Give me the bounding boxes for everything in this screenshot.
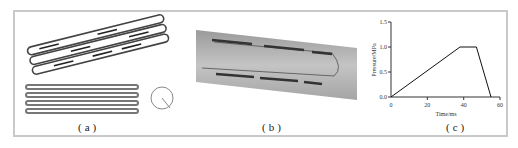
svg-text:0.5: 0.5: [380, 69, 388, 75]
stent-cross-section: [151, 87, 173, 109]
x-tick-labels: 0 20 40 60: [390, 102, 504, 108]
y-axis-label: Pressure/MPa: [371, 43, 377, 77]
x-axis-label: Time/ms: [435, 111, 457, 117]
caption-a: (a): [78, 121, 99, 133]
panel-a: [20, 14, 180, 119]
pressure-line: [391, 47, 491, 97]
panel-b: [194, 28, 359, 103]
stent-unrolled-pattern: [26, 85, 138, 113]
caption-c: (c): [446, 121, 467, 133]
svg-text:60: 60: [497, 102, 503, 108]
svg-text:0.0: 0.0: [380, 94, 388, 100]
svg-text:0: 0: [390, 102, 393, 108]
y-tick-labels: 1.5 1.0 0.5 0.0: [380, 19, 388, 100]
svg-text:40: 40: [461, 102, 467, 108]
svg-text:1.0: 1.0: [380, 44, 388, 50]
pressure-chart: 1.5 1.0 0.5 0.0 0 20 40 60 Time/ms Press…: [366, 14, 506, 119]
balloon-stent-model-image: [194, 28, 359, 103]
stent-3d-image: [20, 14, 180, 119]
caption-b: (b): [262, 121, 284, 133]
svg-text:20: 20: [424, 102, 430, 108]
svg-text:1.5: 1.5: [380, 19, 388, 25]
